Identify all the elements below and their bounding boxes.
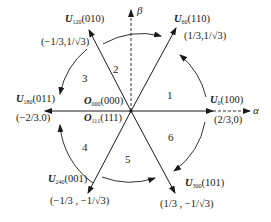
origin-point [129,109,132,112]
sector-4: 4 [82,141,88,153]
vector-u180-label: U180(011) [16,94,55,105]
vector-u60-label: U60(110) [174,14,210,25]
vector-u120-label: U120(010) [65,14,104,25]
vector-u240-label: U240(001) [48,174,87,185]
vector-u300 [131,111,175,193]
vector-u300-coord: (1/3 , −1/√3) [160,199,213,210]
arc-6 [174,122,205,171]
vector-u120-coord: (−1/3,1/√3) [41,37,89,48]
alpha-label: α [253,104,259,116]
zero-vector-o111: O111(111) [84,113,122,124]
beta-label: β [137,4,142,16]
zero-vector-o000: O000(000) [84,96,123,107]
vector-u0-coord: (2/3,0) [214,115,242,126]
arc-1 [180,55,206,97]
sector-5: 5 [125,153,131,165]
vector-u240-coord: (−1/3 , −1/√3) [50,196,109,207]
vector-u0-label: U0(100) [210,95,243,106]
sector-6: 6 [168,131,174,143]
space-vector-diagram [0,0,271,222]
vector-u60-coord: (1/3,1/√3) [184,31,226,42]
arc-5 [102,177,155,182]
vector-u180-coord: (−2/3.0) [16,113,50,124]
sector-1: 1 [167,89,173,101]
arc-2 [103,34,161,44]
sector-2: 2 [113,63,119,75]
vector-u300-label: U300(101) [185,178,224,189]
sector-3: 3 [82,72,88,84]
